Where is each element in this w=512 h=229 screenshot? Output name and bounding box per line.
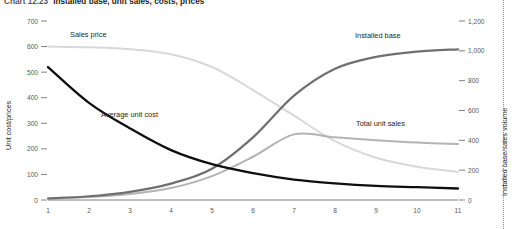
- right-axis-title: Installed base/sales volume: [500, 108, 509, 196]
- x-axis-tick-label: 10: [405, 207, 429, 214]
- x-axis-tick-label: 8: [323, 207, 347, 214]
- right-axis-tick-label: 1,000: [468, 47, 502, 54]
- series-label-total-unit-sales: Total unit sales: [356, 119, 405, 128]
- series-label-average-unit-cost: Average unit cost: [101, 110, 158, 119]
- left-axis-title: Unit cost/prices: [4, 101, 13, 150]
- x-axis-tick-label: 4: [159, 207, 183, 214]
- left-axis-tick-label: 0: [8, 197, 38, 204]
- left-axis-tick-label: 500: [8, 69, 38, 76]
- right-axis-tick-label: 600: [468, 107, 502, 114]
- x-axis-tick-label: 3: [118, 207, 142, 214]
- left-axis-tick-label: 600: [8, 43, 38, 50]
- left-axis-tick-label: 700: [8, 18, 38, 25]
- x-axis-tick-label: 5: [200, 207, 224, 214]
- chart-container: Chart 12.23Installed base, unit sales, c…: [0, 0, 512, 229]
- x-axis-tick-label: 7: [282, 207, 306, 214]
- x-axis-tick-label: 6: [241, 207, 265, 214]
- x-axis-tick-label: 11: [446, 207, 470, 214]
- right-axis-tick-label: 400: [468, 137, 502, 144]
- right-dotted-rule: [503, 0, 504, 229]
- right-axis-tick-label: 800: [468, 77, 502, 84]
- left-axis-tick-label: 100: [8, 171, 38, 178]
- x-axis-tick-label: 1: [36, 207, 60, 214]
- x-axis-tick-label: 9: [364, 207, 388, 214]
- right-axis-tick-label: 0: [468, 197, 502, 204]
- series-label-sales-price: Sales price: [70, 30, 107, 39]
- right-axis-tick-label: 1,200: [468, 18, 502, 25]
- series-line-total-unit-sales: [48, 133, 458, 198]
- series-label-installed-base: Installed base: [355, 31, 401, 40]
- x-axis-tick-label: 2: [77, 207, 101, 214]
- right-axis-tick-label: 200: [468, 167, 502, 174]
